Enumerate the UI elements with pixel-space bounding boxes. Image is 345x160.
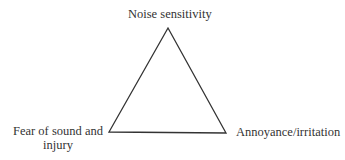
vertex-label-fear-line1: Fear of sound and <box>13 124 103 138</box>
triangle-outline <box>109 28 226 133</box>
triangle-diagram: Noise sensitivity Fear of sound and inju… <box>0 0 345 160</box>
vertex-label-annoyance: Annoyance/irritation <box>236 125 340 139</box>
vertex-label-noise-sensitivity: Noise sensitivity <box>128 7 212 21</box>
vertex-label-fear-line2: injury <box>13 138 103 152</box>
vertex-label-fear-of-sound: Fear of sound and injury <box>13 124 103 152</box>
